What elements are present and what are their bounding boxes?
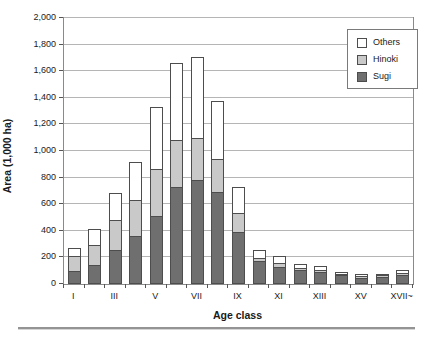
y-tick-label: 1,400 (10, 92, 56, 102)
bar-segment-others (211, 101, 224, 160)
y-tick-label: 2,000 (10, 12, 56, 22)
y-tick-label: 0 (10, 278, 56, 288)
bar-segment-hinoki (88, 245, 101, 266)
bar-segment-sugi (294, 270, 307, 284)
legend-swatch-hinoki-icon (357, 55, 367, 65)
legend-item-hinoki: Hinoki (357, 54, 409, 65)
x-tick-label: V (135, 291, 175, 301)
bar-V (150, 107, 163, 284)
bar-XVII~ (396, 270, 409, 284)
bar-segment-sugi (109, 250, 122, 284)
y-tick-label: 1,600 (10, 65, 56, 75)
bar-segment-hinoki (109, 220, 122, 251)
bar-segment-sugi (150, 216, 163, 284)
x-tick-mark (227, 284, 228, 288)
legend-item-sugi: Sugi (357, 71, 409, 82)
bar-segment-hinoki (150, 169, 163, 217)
x-tick-label: III (94, 291, 134, 301)
x-tick-mark (289, 284, 290, 288)
bar-XII (294, 264, 307, 284)
bar-segment-others (109, 193, 122, 221)
bar-segment-sugi (170, 187, 183, 284)
y-gridline (64, 97, 413, 98)
bar-VI (170, 63, 183, 284)
y-tick-label: 200 (10, 251, 56, 261)
x-tick-label: XI (259, 291, 299, 301)
x-tick-mark (186, 284, 187, 288)
y-tick-mark (59, 256, 63, 257)
y-tick-mark (59, 230, 63, 231)
x-tick-mark (309, 284, 310, 288)
stacked-bar-chart-figure: Area (1,000 ha) 02004006008001,0001,2001… (0, 0, 432, 341)
bar-I (68, 248, 81, 284)
x-tick-label: XVII~ (382, 291, 422, 301)
bar-IV (129, 162, 142, 284)
legend-label: Sugi (373, 71, 391, 82)
bar-segment-sugi (211, 192, 224, 284)
bar-segment-hinoki (232, 213, 245, 233)
bar-segment-hinoki (211, 159, 224, 193)
bar-XVI (376, 274, 389, 284)
y-gridline (64, 17, 413, 18)
bar-segment-others (150, 107, 163, 170)
bar-segment-sugi (253, 261, 266, 284)
bar-segment-sugi (129, 236, 142, 284)
y-tick-mark (59, 97, 63, 98)
y-tick-mark (59, 203, 63, 204)
bar-segment-others (129, 162, 142, 201)
x-tick-mark (207, 284, 208, 288)
bar-segment-others (232, 187, 245, 214)
bar-segment-hinoki (170, 140, 183, 188)
bar-segment-sugi (88, 265, 101, 284)
y-tick-mark (59, 150, 63, 151)
bar-segment-sugi (396, 275, 409, 284)
bar-segment-sugi (376, 277, 389, 284)
bar-segment-sugi (314, 272, 327, 284)
y-tick-label: 1,200 (10, 118, 56, 128)
x-tick-label: XV (341, 291, 381, 301)
bar-IX (232, 187, 245, 284)
y-tick-mark (59, 17, 63, 18)
bar-II (88, 229, 101, 284)
bar-segment-sugi (355, 278, 368, 284)
x-tick-mark (125, 284, 126, 288)
legend-swatch-others-icon (357, 38, 367, 48)
bar-VII (191, 57, 204, 284)
bar-segment-sugi (335, 275, 348, 284)
y-tick-label: 1,000 (10, 145, 56, 155)
x-tick-mark (268, 284, 269, 288)
y-tick-mark (59, 123, 63, 124)
y-tick-label: 600 (10, 198, 56, 208)
x-tick-mark (350, 284, 351, 288)
y-gridline (64, 150, 413, 151)
y-tick-label: 1,800 (10, 39, 56, 49)
y-tick-mark (59, 70, 63, 71)
bar-VIII (211, 101, 224, 284)
x-tick-mark (412, 284, 413, 288)
x-tick-mark (166, 284, 167, 288)
y-tick-mark (59, 177, 63, 178)
bar-III (109, 193, 122, 284)
x-tick-label: XIII (300, 291, 340, 301)
bar-XIV (335, 272, 348, 284)
bar-segment-others (88, 229, 101, 246)
x-axis-title: Age class (63, 309, 412, 321)
x-tick-label: I (53, 291, 93, 301)
x-tick-mark (63, 284, 64, 288)
bar-segment-sugi (273, 267, 286, 284)
x-tick-mark (145, 284, 146, 288)
x-tick-label: IX (218, 291, 258, 301)
x-tick-mark (391, 284, 392, 288)
bar-segment-sugi (191, 180, 204, 284)
bar-XIII (314, 266, 327, 284)
y-gridline (64, 177, 413, 178)
x-tick-label: VII (176, 291, 216, 301)
x-tick-mark (84, 284, 85, 288)
x-tick-mark (248, 284, 249, 288)
x-tick-mark (371, 284, 372, 288)
bar-XI (273, 256, 286, 284)
y-tick-mark (59, 44, 63, 45)
legend-label: Others (373, 37, 400, 48)
bar-segment-hinoki (191, 138, 204, 181)
bar-segment-sugi (68, 271, 81, 284)
